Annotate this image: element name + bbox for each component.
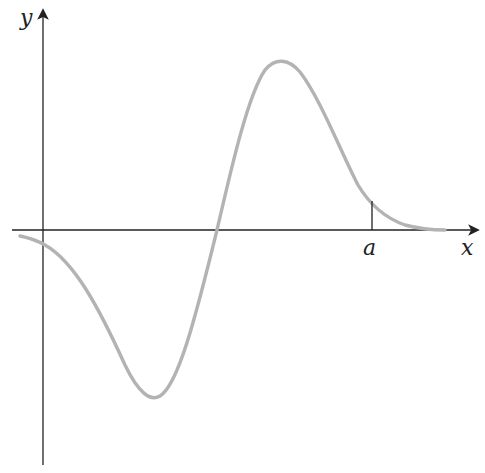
- chart-canvas: y a x: [0, 0, 485, 473]
- x-axis-label: x: [461, 235, 474, 260]
- a-label: a: [363, 235, 376, 260]
- y-axis-label: y: [19, 5, 33, 30]
